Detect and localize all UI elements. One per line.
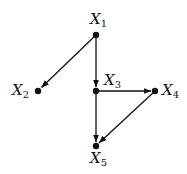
node-x4	[152, 88, 158, 94]
edge-x1-x2	[42, 35, 97, 88]
label-x2: X2	[12, 83, 29, 100]
edge-x4-x5	[99, 91, 155, 143]
label-x5: X5	[90, 151, 107, 168]
label-x4: X4	[162, 83, 179, 100]
label-x3: X3	[104, 73, 121, 90]
node-x2	[35, 88, 41, 94]
label-x1: X1	[90, 12, 107, 29]
node-x1	[93, 32, 99, 38]
node-x3	[93, 88, 99, 94]
